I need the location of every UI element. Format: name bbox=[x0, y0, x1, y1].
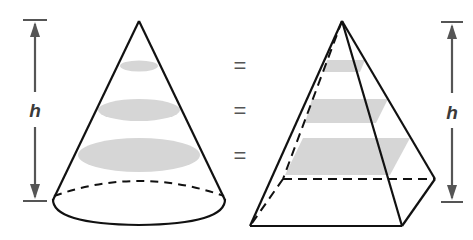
left-arrowhead-down-icon bbox=[30, 184, 40, 199]
right-arrowhead-up-icon bbox=[447, 24, 457, 39]
cone bbox=[53, 21, 225, 225]
right-height-dimension: h bbox=[441, 22, 463, 202]
equals-column: = = = bbox=[234, 53, 247, 168]
left-arrowhead-up-icon bbox=[30, 22, 40, 37]
right-height-label: h bbox=[446, 102, 458, 123]
cone-cross-section-top bbox=[120, 61, 158, 72]
equals-sign-bottom: = bbox=[234, 143, 247, 168]
pyramid bbox=[250, 21, 435, 226]
cone-base-visible-edge bbox=[53, 199, 225, 225]
pyramid-edge-front-left bbox=[250, 21, 342, 226]
pyramid-cross-section-bottom bbox=[285, 138, 410, 175]
pyramid-base-right bbox=[402, 179, 435, 226]
pyramid-edge-front-right bbox=[342, 21, 402, 226]
right-arrowhead-down-icon bbox=[447, 185, 457, 200]
equals-sign-middle: = bbox=[234, 98, 247, 123]
equals-sign-top: = bbox=[234, 53, 247, 78]
cavalieri-diagram: h = = = h bbox=[0, 0, 473, 240]
pyramid-cross-section-middle bbox=[305, 99, 388, 123]
pyramid-hidden-edge-base-left bbox=[250, 179, 283, 226]
left-height-label: h bbox=[29, 100, 41, 121]
cone-base-hidden-edge bbox=[54, 181, 224, 196]
cone-cross-section-middle bbox=[98, 99, 180, 121]
pyramid-cross-section-top bbox=[323, 60, 365, 72]
left-height-dimension: h bbox=[23, 20, 47, 201]
cone-cross-section-bottom bbox=[78, 138, 200, 172]
